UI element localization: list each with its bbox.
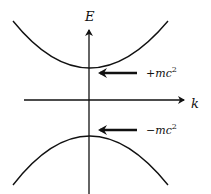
positive-energy-curve bbox=[13, 21, 168, 68]
negative-energy-curve bbox=[13, 136, 168, 185]
energy-axis-label: E bbox=[84, 9, 95, 24]
plus-mc2-label: +mc2 bbox=[146, 65, 177, 80]
minus-mc2-label: −mc2 bbox=[146, 122, 177, 137]
dispersion-diagram: E k +mc2 −mc2 bbox=[0, 0, 211, 194]
momentum-axis-label: k bbox=[191, 96, 199, 111]
